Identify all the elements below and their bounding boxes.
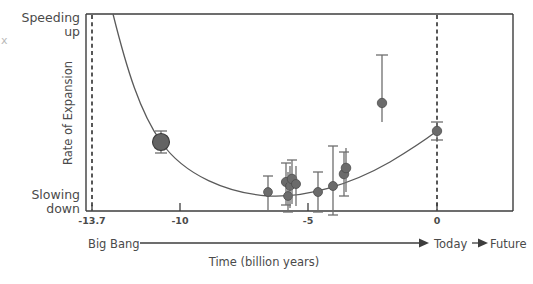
label-up: up [64,24,80,39]
edge-cutoff-glyph: x [1,34,8,47]
timeline-arrowhead [419,239,429,248]
label-down: down [46,201,80,216]
x-tick-label-2: -5 [303,215,314,226]
data-point [292,166,301,206]
x-tick-label-3: 0 [434,215,441,226]
label-speeding: Speeding [21,10,80,25]
data-point [341,148,351,192]
x-axis-ticks [92,203,437,211]
y-axis-top-label: Speeding up [21,10,80,39]
label-big-bang: Big Bang [88,237,140,251]
y-axis-title: Rate of Expansion [61,61,75,165]
expansion-fit-curve [113,14,437,196]
y-axis-bottom-label: Slowing down [31,187,80,216]
x-axis-title: Time (billion years) [208,255,319,269]
data-point [376,55,388,122]
label-today: Today [433,237,467,251]
label-future: Future [490,237,527,251]
x-tick-label-0: -13.7 [78,215,105,226]
data-point [328,146,338,215]
label-slowing: Slowing [31,187,80,202]
data-point [263,176,273,212]
timeline-arrow-row: Big Bang Today Future [88,237,527,251]
x-tick-label-1: -10 [171,215,189,226]
data-points [153,55,444,215]
data-point-today [431,122,443,140]
data-point [339,152,349,196]
future-arrowhead [478,239,488,248]
expansion-rate-chart: x -13.7 -10 -5 0 Speeding up [0,0,533,284]
data-point [313,172,323,212]
chart-svg: x -13.7 -10 -5 0 Speeding up [0,0,533,284]
x-tick-labels: -13.7 -10 -5 0 [78,215,440,226]
